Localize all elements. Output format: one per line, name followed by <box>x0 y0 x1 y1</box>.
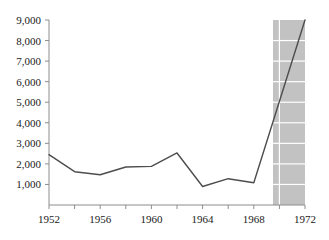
data-series-line <box>49 20 305 187</box>
svg-text:1,000: 1,000 <box>16 178 41 190</box>
svg-text:5,000: 5,000 <box>16 96 41 108</box>
svg-text:1956: 1956 <box>89 213 112 225</box>
y-axis-ticks <box>45 20 49 184</box>
svg-text:1952: 1952 <box>38 213 60 225</box>
svg-text:6,000: 6,000 <box>16 76 41 88</box>
svg-text:3,000: 3,000 <box>16 137 41 149</box>
x-axis-ticks <box>49 205 305 209</box>
svg-text:4,000: 4,000 <box>16 117 41 129</box>
x-axis-tick-labels: 195219561960196419681972 <box>38 213 316 225</box>
svg-text:8,000: 8,000 <box>16 35 41 47</box>
svg-text:1972: 1972 <box>294 213 316 225</box>
svg-text:9,000: 9,000 <box>16 14 41 26</box>
y-axis-tick-labels: 1,0002,0003,0004,0005,0006,0007,0008,000… <box>16 14 41 190</box>
svg-text:1964: 1964 <box>192 213 215 225</box>
svg-text:1960: 1960 <box>140 213 163 225</box>
svg-text:7,000: 7,000 <box>16 55 41 67</box>
chart-plot-area: 1,0002,0003,0004,0005,0006,0007,0008,000… <box>0 0 329 240</box>
svg-text:1968: 1968 <box>243 213 266 225</box>
shaded-forecast-band <box>273 20 305 205</box>
line-chart: 1,0002,0003,0004,0005,0006,0007,0008,000… <box>0 0 329 240</box>
svg-text:2,000: 2,000 <box>16 158 41 170</box>
